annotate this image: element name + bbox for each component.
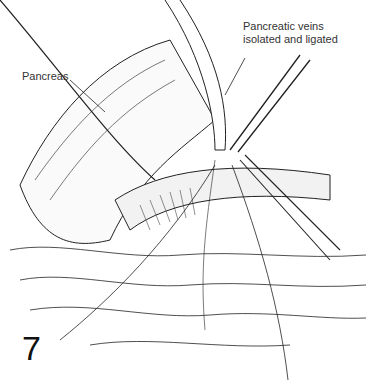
- veins-label-line1: Pancreatic veins: [243, 20, 324, 32]
- bowel: [10, 247, 366, 256]
- surgical-illustration: [0, 0, 366, 385]
- figure-number: 7: [22, 330, 41, 366]
- veins-leader: [225, 58, 245, 95]
- veins-label-line2: isolated and ligated: [243, 33, 338, 45]
- forceps: [230, 55, 310, 152]
- pancreas-label: Pancreas: [22, 70, 68, 82]
